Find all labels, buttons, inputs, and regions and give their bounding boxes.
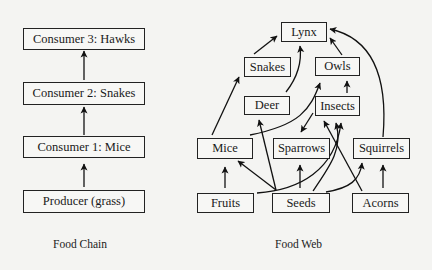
web-node-sparrows: Sparrows xyxy=(273,138,330,159)
web-node-acorns: Acorns xyxy=(352,193,409,213)
edge-seeds-squirrels xyxy=(326,163,362,192)
chain-node-grass: Producer (grass) xyxy=(23,190,145,213)
web-node-mice: Mice xyxy=(197,138,253,159)
edge-insects-sparrows xyxy=(301,113,313,132)
web-node-squirrels: Squirrels xyxy=(353,138,410,159)
food-web-caption: Food Web xyxy=(275,238,322,250)
edge-squirrels-lynx xyxy=(330,29,384,137)
web-node-snakes: Snakes xyxy=(244,57,291,77)
web-node-lynx: Lynx xyxy=(281,22,327,42)
web-node-fruits: Fruits xyxy=(197,193,254,213)
edge-owls-lynx xyxy=(330,38,342,55)
food-chain-caption: Food Chain xyxy=(53,238,107,250)
edge-mice-snakes xyxy=(212,77,239,135)
web-node-owls: Owls xyxy=(315,57,360,76)
web-node-deer: Deer xyxy=(244,96,290,115)
web-node-seeds: Seeds xyxy=(272,193,330,213)
edge-snakes-lynx xyxy=(254,36,277,54)
chain-node-snakes: Consumer 2: Snakes xyxy=(23,82,145,105)
chain-node-mice: Consumer 1: Mice xyxy=(23,136,145,158)
chain-node-hawks: Consumer 3: Hawks xyxy=(23,28,145,50)
web-node-insects: Insects xyxy=(315,96,360,116)
